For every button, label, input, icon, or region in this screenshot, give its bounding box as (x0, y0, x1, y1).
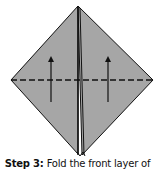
step-caption: Step 3: Fold the front layer of (0, 157, 155, 173)
origami-diagram (0, 0, 155, 160)
step-label: Step 3: (5, 158, 44, 169)
step-instruction: Fold the front layer of (47, 158, 151, 169)
